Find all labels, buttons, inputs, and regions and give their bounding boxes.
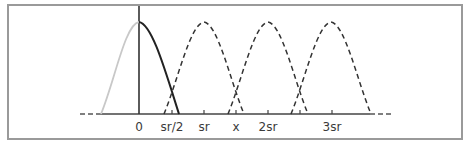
diagram-stage: 0 sr/2 sr x 2sr 3sr [0, 0, 465, 144]
label-x: x [232, 120, 239, 134]
kernel-right-half [139, 22, 179, 114]
shifted-kernel-sr [164, 22, 244, 114]
kernel-left-half [101, 22, 139, 114]
label-two-sr: 2sr [259, 120, 278, 134]
label-half-sr: sr/2 [161, 120, 184, 134]
shifted-kernel-2sr [228, 22, 308, 114]
label-zero: 0 [135, 120, 143, 134]
diagram-canvas: 0 sr/2 sr x 2sr 3sr [0, 0, 465, 144]
label-three-sr: 3sr [323, 120, 342, 134]
label-sr: sr [198, 120, 209, 134]
